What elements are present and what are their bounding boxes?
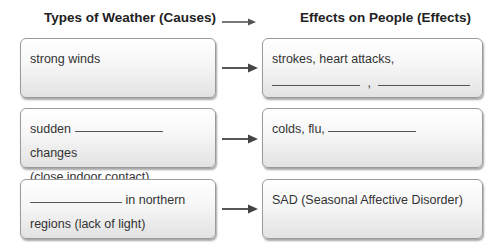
- right-arrow-icon: [222, 204, 258, 214]
- cause-note: regions (lack of light): [30, 212, 205, 236]
- cause-suffix: in northern: [125, 193, 185, 207]
- cause-prefix: sudden: [30, 122, 71, 136]
- cause-box-northern-regions: in northern regions (lack of light): [20, 179, 216, 239]
- cause-box-strong-winds: strong winds: [20, 38, 216, 98]
- cause-text: strong winds: [30, 52, 100, 66]
- fill-in-blank[interactable]: [378, 85, 470, 86]
- cause-suffix: changes: [30, 146, 77, 160]
- header-causes: Types of Weather (Causes): [44, 10, 216, 25]
- fill-in-blank[interactable]: [272, 85, 360, 86]
- right-arrow-icon: [222, 18, 256, 26]
- right-arrow-icon: [222, 63, 258, 73]
- fill-in-blank[interactable]: [75, 131, 163, 132]
- effect-box-sad: SAD (Seasonal Affective Disorder): [262, 179, 483, 239]
- effect-blanks: ,: [272, 71, 472, 95]
- right-arrow-icon: [222, 134, 258, 144]
- fill-in-blank[interactable]: [30, 202, 122, 203]
- header-effects: Effects on People (Effects): [300, 10, 471, 25]
- effect-text: SAD (Seasonal Affective Disorder): [272, 193, 463, 207]
- effect-box-strokes: strokes, heart attacks, ,: [262, 38, 483, 98]
- effect-box-colds-flu: colds, flu,: [262, 108, 483, 168]
- blank-separator: ,: [367, 76, 370, 90]
- effect-text: colds, flu,: [272, 122, 325, 136]
- effect-text: strokes, heart attacks,: [272, 47, 472, 71]
- fill-in-blank[interactable]: [328, 131, 416, 132]
- cause-box-sudden-changes: sudden changes (close indoor contact): [20, 108, 216, 168]
